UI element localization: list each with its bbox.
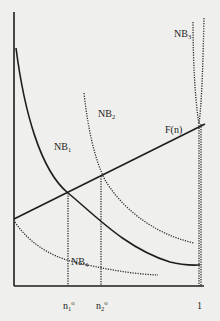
- tick-n1-label: n1o: [63, 299, 75, 312]
- tick-n2-label: n2o: [96, 299, 108, 312]
- nb3-curve-left: [193, 22, 199, 124]
- nb4-label: NB4: [71, 256, 89, 268]
- nb3-label: NB3: [174, 28, 191, 40]
- tick-1-label: 1: [197, 300, 202, 311]
- nb2-label: NB2: [98, 108, 115, 120]
- fn-label: F(n): [165, 124, 182, 136]
- fn-line: [14, 124, 205, 219]
- nb1-label: NB1: [54, 141, 71, 153]
- diagram: NB1 NB2 NB3 NB4 F(n) n1o n2o 1: [0, 0, 220, 321]
- nb1-curve: [16, 48, 200, 265]
